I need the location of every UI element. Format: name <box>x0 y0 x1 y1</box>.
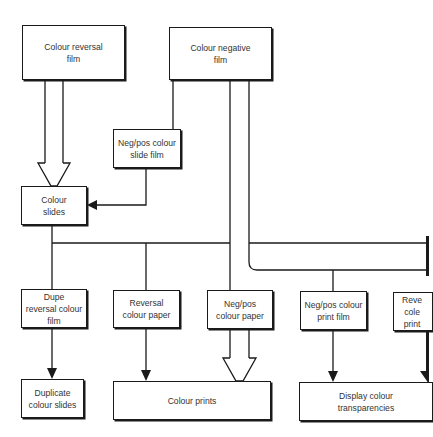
node-label: Duplicate colour slides <box>29 387 77 411</box>
node-colour-prints: Colour prints <box>113 381 271 420</box>
node-duplicate-colour-slides: Duplicate colour slides <box>21 379 84 418</box>
arrowhead-to-slides <box>87 200 97 210</box>
node-label: Colour reversal film <box>44 41 102 65</box>
node-label: Dupe reversal colour film <box>26 291 82 327</box>
node-dupe-reversal-colour-film: Dupe reversal colour film <box>21 289 87 328</box>
node-display-colour-transparencies: Display colour transparencies <box>299 382 433 421</box>
node-reversal-colour-print-film-cropped: Reve cole print <box>393 292 433 331</box>
node-label: Display colour transparencies <box>338 390 394 414</box>
node-label: Colour prints <box>168 395 217 407</box>
node-label: Reversal colour paper <box>123 297 171 321</box>
node-label: Colour slides <box>41 194 66 218</box>
node-negpos-colour-paper: Neg/pos colour paper <box>207 290 273 329</box>
node-reversal-colour-paper: Reversal colour paper <box>113 290 180 328</box>
arrowhead-to-prints <box>141 370 151 381</box>
arrowhead-to-display <box>328 371 338 382</box>
hollow-arrow-reversal-to-slides <box>38 80 70 186</box>
line-slidefilm-to-slides <box>95 168 146 205</box>
node-label: Reve cole print <box>402 294 422 330</box>
node-label: Neg/pos colour print film <box>305 299 363 323</box>
node-label: Neg/pos colour paper <box>216 298 264 322</box>
node-negpos-colour-print-film: Neg/pos colour print film <box>300 291 367 330</box>
node-colour-negative-film: Colour negative film <box>169 27 272 80</box>
node-label: Colour negative film <box>190 42 250 66</box>
node-negpos-colour-slide-film: Neg/pos colour slide film <box>113 129 181 168</box>
node-colour-reversal-film: Colour reversal film <box>22 25 125 80</box>
node-colour-slides: Colour slides <box>21 186 87 225</box>
node-label: Neg/pos colour slide film <box>118 137 176 161</box>
arrowhead-to-duplicate <box>47 368 57 379</box>
